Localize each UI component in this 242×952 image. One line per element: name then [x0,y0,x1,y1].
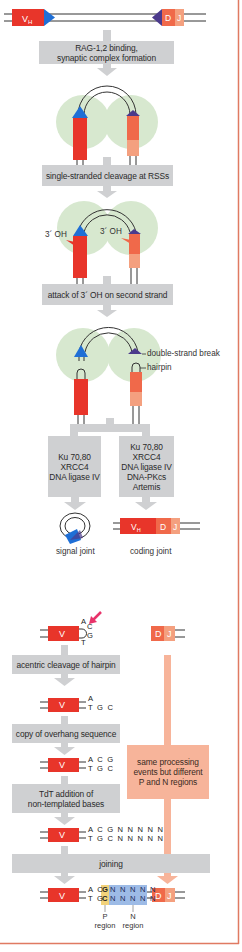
label-signal-joint: signal joint [56,547,95,557]
protein-ligase-iv: DNA ligase IV [121,462,171,472]
synaptic-complex-2 [57,201,158,287]
down-arrow [64,502,86,510]
hairpin-base-c: C [87,623,94,631]
step-attack-3oh: attack of 3´ OH on second strand [42,284,173,305]
v-segment [74,379,88,415]
step-acentric-cleavage: acentric cleavage of hairpin [12,655,120,674]
v-segment [73,118,87,160]
branch-connector [70,418,150,436]
label-3oh-right: 3´ OH [100,227,122,237]
j-segment [130,392,142,406]
step-tdt-line-1: TdT addition of [39,789,93,799]
step-copy-overhang: copy of overhang sequence [12,724,120,743]
j-segment [129,254,140,268]
protein-ku: Ku 70,80 [58,452,91,462]
step-rag-binding: RAG-1,2 binding, synaptic complex format… [39,41,174,64]
hairpin-base-g: G [87,632,94,640]
seq-cleaved-top: A [88,695,94,703]
v-label: V [59,629,65,639]
step-joining: joining [12,854,210,873]
signal-joint-proteins: Ku 70,80 XRCC4 DNA ligase IV [48,436,101,497]
label-hairpin: hairpin [147,363,172,373]
p-region-word: region [92,922,118,931]
label-3oh-left: 3´ OH [45,230,67,240]
j-label: J [167,891,172,901]
step-single-strand-cleavage: single-stranded cleavage at RSSs [42,165,173,186]
seq-tdt-top: A C G N N N N N [88,826,164,834]
j-label: J [173,522,177,532]
seq-copied-bottom: T G C [88,765,114,773]
down-arrow [97,68,117,76]
v-label: V [59,760,65,770]
down-arrow [97,310,117,317]
seq-final-n-top: N N N N N [110,886,157,894]
label-coding-joint: coding joint [130,547,171,557]
seq-copied-top: A C G [88,756,114,764]
protein-artemis: Artemis [133,482,161,492]
seq-final-p-top: G [102,886,109,894]
v-segment [73,236,87,278]
d-label: D [165,13,171,23]
seq-tdt-bottom: T G C N N N N N [88,835,164,843]
j-segment [127,140,139,156]
d-segment [127,116,139,140]
down-arrow [54,876,75,884]
v-label: V [59,891,65,901]
down-arrow [54,747,75,755]
rss-dj-triangle [152,9,162,26]
d-segment [129,234,140,254]
orange-connector [164,655,171,745]
protein-ligase-iv: DNA ligase IV [49,472,99,482]
note-line-1: same processing [137,757,199,767]
seq-cleaved-bottom: T G C [88,704,114,712]
note-line-2: events but different [133,767,202,777]
signal-joint-circle [60,513,90,544]
d-label: D [155,629,162,639]
j-label: J [177,13,181,23]
label-n-region: N region [120,913,146,930]
v-label: V [59,830,65,840]
down-arrow [54,817,75,825]
j-label: J [167,629,172,639]
step-tdt-addition: TdT addition of non-templated bases [12,784,120,813]
down-arrow [97,191,117,198]
label-p-region: P region [92,913,118,930]
rss-v-triangle [44,9,55,26]
down-arrow [54,678,75,686]
step-tdt-line-2: non-templated bases [28,799,104,809]
protein-ku: Ku 70,80 [130,442,163,452]
coding-joint [113,518,200,534]
seq-final-p-bottom: C [102,895,109,903]
note-line-3: P and N regions [139,777,197,787]
down-arrow [157,876,178,884]
protein-xrcc4: XRCC4 [133,452,161,462]
protein-xrcc4: XRCC4 [61,462,89,472]
same-processing-note: same processing events but different P a… [127,745,209,799]
v-label: V [59,700,65,710]
down-arrow [135,502,157,510]
label-double-strand-break: double-strand break [147,349,220,359]
step-rag-binding-line-1: RAG-1,2 binding, [75,43,138,53]
germline-dna [4,9,206,26]
hairpin-base-t: T [81,639,87,647]
d-label: D [160,522,166,532]
synaptic-complex-3 [56,327,161,424]
seq-final-n-bottom: N N N N N [110,895,157,903]
coding-joint-proteins: Ku 70,80 XRCC4 DNA ligase IV DNA-PKcs Ar… [119,436,174,497]
n-region-word: region [120,922,146,931]
d-segment [130,372,142,392]
step-rag-binding-line-2: synaptic complex formation [57,53,156,63]
protein-dna-pkcs: DNA-PKcs [127,472,166,482]
